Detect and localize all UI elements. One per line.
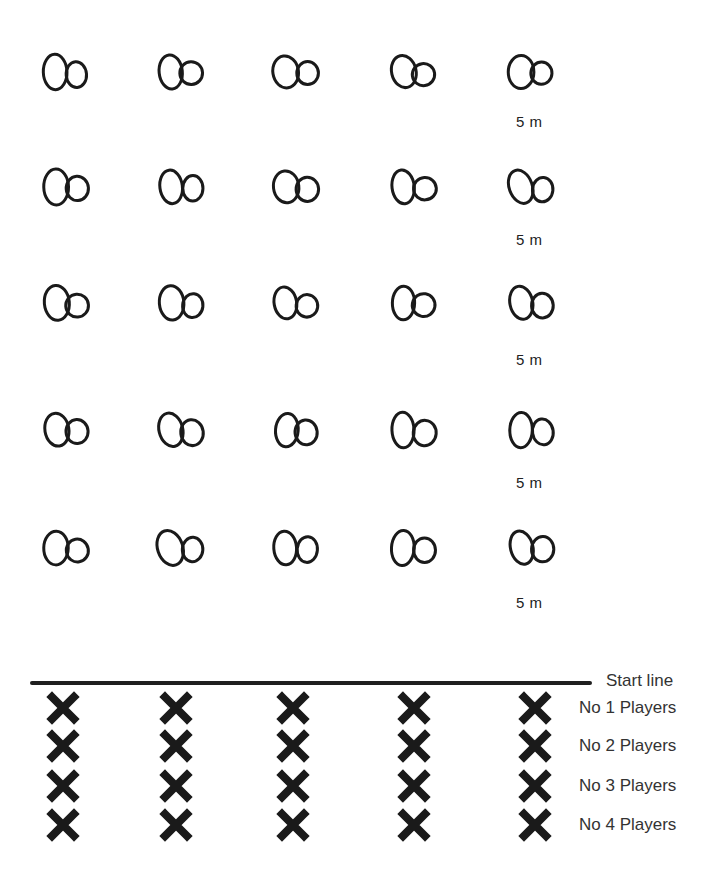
player-marker-icon	[159, 691, 193, 725]
cone-pair-icon	[265, 281, 325, 325]
distance-label: 5 m	[516, 474, 543, 491]
cone-pair-icon	[35, 165, 95, 209]
player-marker-icon	[276, 729, 310, 763]
cone-pair-icon	[150, 408, 210, 452]
cone-pair-icon	[35, 50, 95, 94]
player-marker-icon	[397, 769, 431, 803]
cone-pair-icon	[382, 165, 442, 209]
cone-pair-icon	[500, 165, 560, 209]
player-marker-icon	[46, 729, 80, 763]
start-line	[30, 681, 592, 685]
cone-pair-icon	[265, 165, 325, 209]
cone-pair-icon	[500, 50, 560, 94]
cone-pair-icon	[382, 526, 442, 570]
player-marker-icon	[46, 691, 80, 725]
cone-pair-icon	[265, 526, 325, 570]
player-marker-icon	[397, 691, 431, 725]
player-marker-icon	[397, 729, 431, 763]
cone-pair-icon	[35, 408, 95, 452]
player-marker-icon	[518, 808, 552, 842]
cone-pair-icon	[150, 50, 210, 94]
distance-label: 5 m	[516, 594, 543, 611]
player-marker-icon	[159, 769, 193, 803]
player-marker-icon	[518, 729, 552, 763]
player-marker-icon	[159, 808, 193, 842]
cone-pair-icon	[500, 408, 560, 452]
player-marker-icon	[276, 691, 310, 725]
cone-pair-icon	[382, 408, 442, 452]
cone-pair-icon	[150, 526, 210, 570]
player-marker-icon	[276, 769, 310, 803]
player-marker-icon	[46, 769, 80, 803]
player-marker-icon	[276, 808, 310, 842]
player-marker-icon	[518, 769, 552, 803]
start-line-label: Start line	[606, 671, 673, 691]
cone-pair-icon	[150, 165, 210, 209]
cone-pair-icon	[500, 281, 560, 325]
player-marker-icon	[518, 691, 552, 725]
player-row-label: No 2 Players	[579, 736, 676, 756]
cone-pair-icon	[265, 408, 325, 452]
player-row-label: No 3 Players	[579, 776, 676, 796]
player-marker-icon	[46, 808, 80, 842]
player-row-label: No 1 Players	[579, 698, 676, 718]
cone-pair-icon	[150, 281, 210, 325]
cone-pair-icon	[500, 526, 560, 570]
distance-label: 5 m	[516, 113, 543, 130]
cone-pair-icon	[382, 50, 442, 94]
player-row-label: No 4 Players	[579, 815, 676, 835]
distance-label: 5 m	[516, 351, 543, 368]
player-marker-icon	[397, 808, 431, 842]
player-marker-icon	[159, 729, 193, 763]
cone-pair-icon	[35, 526, 95, 570]
distance-label: 5 m	[516, 231, 543, 248]
cone-pair-icon	[35, 281, 95, 325]
cone-pair-icon	[382, 281, 442, 325]
cone-pair-icon	[265, 50, 325, 94]
